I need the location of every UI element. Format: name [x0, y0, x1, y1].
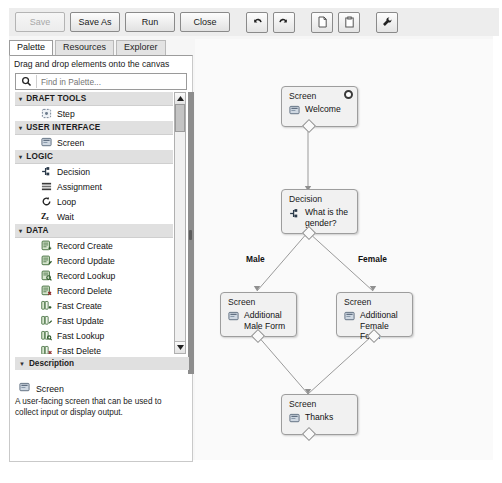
palette-item-fast-create[interactable]: Fast Create — [15, 298, 173, 313]
palette-item-step[interactable]: Step — [15, 106, 173, 121]
palette-item-record-delete[interactable]: Record Delete — [15, 283, 173, 298]
search-input[interactable] — [37, 76, 186, 88]
chevron-down-icon: ▾ — [19, 228, 22, 234]
record-update-icon — [41, 255, 52, 266]
palette-item-record-lookup[interactable]: Record Lookup — [15, 268, 173, 283]
palette-item-record-create[interactable]: Record Create — [15, 238, 173, 253]
node-label: Welcome — [305, 104, 341, 115]
save-as-button[interactable]: Save As — [70, 12, 120, 32]
palette-tree[interactable]: ▾DRAFT TOOLSStep▾USER INTERFACEScreen▾LO… — [15, 92, 173, 354]
palette-group-draft-tools[interactable]: ▾DRAFT TOOLS — [15, 92, 173, 106]
palette-item-loop[interactable]: Loop — [15, 194, 173, 209]
node-type-label: Screen — [344, 297, 371, 307]
palette-item-record-update[interactable]: Record Update — [15, 253, 173, 268]
node-label: Additional Female Form — [360, 310, 407, 342]
tab-explorer[interactable]: Explorer — [116, 40, 166, 55]
palette-group-data[interactable]: ▾DATA — [15, 224, 173, 238]
svg-text:z: z — [46, 215, 49, 221]
screen-icon — [289, 413, 300, 424]
palette-item-fast-lookup[interactable]: Fast Lookup — [15, 328, 173, 343]
splitter-grip — [189, 230, 192, 240]
chevron-down-icon: ▼ — [19, 361, 25, 367]
fast-create-icon — [41, 300, 52, 311]
flow-node-welcome[interactable]: Screen Welcome — [281, 86, 358, 127]
copy-button[interactable] — [311, 12, 333, 33]
description-header[interactable]: ▼ Description — [15, 357, 189, 370]
fast-delete-icon — [41, 345, 52, 354]
redo-button[interactable] — [273, 12, 295, 33]
node-label: What is the gender? — [305, 207, 352, 228]
palette-item-label: Record Lookup — [57, 271, 115, 281]
step-icon — [41, 108, 52, 119]
screen-icon — [228, 311, 239, 322]
screen-icon — [344, 311, 355, 322]
palette-item-label: Record Create — [57, 241, 113, 251]
assignment-icon — [41, 181, 52, 192]
palette-item-label: Record Delete — [57, 286, 112, 296]
run-button[interactable]: Run — [125, 12, 175, 32]
palette-group-label: LOGIC — [26, 152, 53, 161]
palette-item-label: Fast Delete — [57, 346, 101, 355]
palette-item-label: Screen — [57, 138, 84, 148]
flow-designer-window: Save Save As Run Close — [0, 0, 502, 483]
record-delete-icon — [41, 285, 52, 296]
wait-icon: Zz — [41, 211, 52, 222]
palette-item-fast-update[interactable]: Fast Update — [15, 313, 173, 328]
search-icon — [16, 75, 37, 88]
palette-group-label: USER INTERFACE — [26, 123, 100, 132]
palette-group-logic[interactable]: ▾LOGIC — [15, 150, 173, 164]
node-type-label: Screen — [228, 297, 255, 307]
node-content: Welcome — [289, 104, 352, 116]
undo-icon — [251, 16, 263, 28]
palette-item-assignment[interactable]: Assignment — [15, 179, 173, 194]
edge-label-male: Male — [246, 254, 265, 264]
node-type-label: Screen — [289, 399, 316, 409]
palette-hint: Drag and drop elements onto the canvas — [14, 59, 192, 69]
palette-item-label: Fast Lookup — [57, 331, 104, 341]
node-label: Additional Male Form — [244, 310, 291, 331]
chevron-down-icon: ▾ — [19, 125, 22, 131]
palette-group-label: DATA — [26, 226, 48, 235]
edge-label-female: Female — [358, 254, 387, 264]
panel-splitter[interactable] — [188, 92, 194, 374]
palette-item-label: Assignment — [57, 182, 102, 192]
palette-item-label: Step — [57, 109, 75, 119]
tab-palette[interactable]: Palette — [9, 40, 53, 55]
flow-canvas[interactable]: Screen Welcome Decision What is the gend… — [195, 39, 493, 460]
palette-item-label: Fast Update — [57, 316, 104, 326]
fast-update-icon — [41, 315, 52, 326]
description-body: A user-facing screen that can be used to… — [15, 396, 183, 418]
undo-button[interactable] — [246, 12, 268, 33]
palette-item-label: Wait — [57, 212, 74, 222]
close-button[interactable]: Close — [180, 12, 230, 32]
decision-icon — [289, 208, 300, 219]
node-label: Thanks — [305, 412, 333, 423]
chevron-down-icon: ▾ — [19, 96, 22, 102]
screen-icon — [19, 382, 30, 395]
palette-scrollbar[interactable] — [174, 92, 186, 354]
start-element-icon — [344, 90, 353, 99]
palette-item-label: Fast Create — [57, 301, 102, 311]
description-title-row: Screen — [19, 382, 64, 395]
record-lookup-icon — [41, 270, 52, 281]
palette-item-fast-delete[interactable]: Fast Delete — [15, 343, 173, 354]
flow-node-thanks[interactable]: Screen Thanks — [281, 394, 358, 435]
loop-icon — [41, 196, 52, 207]
save-button[interactable]: Save — [15, 12, 65, 32]
paste-button[interactable] — [338, 12, 360, 33]
palette-item-wait[interactable]: ZzWait — [15, 209, 173, 224]
flow-node-decision[interactable]: Decision What is the gender? — [281, 189, 358, 234]
paste-icon — [344, 16, 355, 28]
tab-resources[interactable]: Resources — [55, 40, 114, 55]
chevron-down-icon: ▾ — [19, 154, 22, 160]
settings-button[interactable] — [376, 12, 398, 33]
palette-item-decision[interactable]: Decision — [15, 164, 173, 179]
scroll-down-icon[interactable] — [175, 341, 185, 353]
palette-group-user-interface[interactable]: ▾USER INTERFACE — [15, 121, 173, 135]
palette-item-screen[interactable]: Screen — [15, 135, 173, 150]
node-content: Additional Male Form — [228, 310, 291, 331]
scrollbar-thumb[interactable] — [175, 104, 185, 132]
node-type-label: Screen — [289, 91, 316, 101]
decision-icon — [41, 166, 52, 177]
search-box[interactable] — [15, 73, 187, 90]
